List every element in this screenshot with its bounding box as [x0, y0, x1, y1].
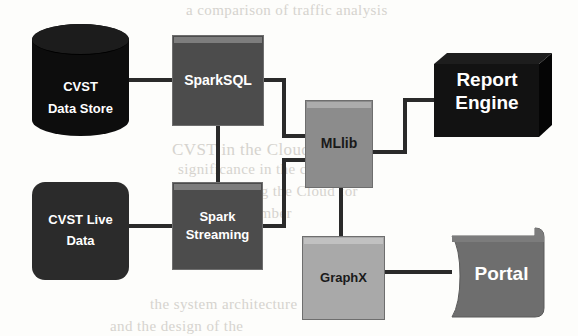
box-highlight: [307, 102, 371, 108]
node-cvst-data-store[interactable]: CVST Data Store: [32, 24, 129, 136]
node-label: Spark: [196, 210, 238, 225]
node-label-second-line: Streaming: [183, 228, 253, 243]
node-graphx[interactable]: GraphX: [302, 236, 385, 320]
node-spark-streaming[interactable]: Spark Streaming: [172, 182, 263, 270]
edge-sparksql-mllib: [264, 80, 305, 136]
box-highlight: [174, 37, 262, 43]
node-sparksql[interactable]: SparkSQL: [172, 35, 264, 126]
node-portal[interactable]: Portal: [443, 226, 548, 322]
node-report-engine[interactable]: Report Engine: [434, 53, 552, 137]
node-label-second-line: Engine: [452, 92, 521, 113]
node-label-second-line: Data Store: [32, 88, 129, 117]
node-label: Portal: [472, 263, 532, 284]
edge-mllib-reportengine: [373, 100, 441, 152]
node-mllib[interactable]: MLlib: [305, 100, 373, 188]
node-label: GraphX: [317, 271, 370, 286]
node-cvst-live-data[interactable]: CVST Live Data: [32, 182, 129, 280]
edge-streaming-mllib: [263, 160, 305, 226]
node-label: SparkSQL: [181, 73, 255, 89]
box-highlight: [304, 238, 383, 244]
node-label: Report: [453, 69, 520, 90]
cylinder-top-icon: [32, 24, 129, 55]
diagram-canvas: a comparison of traffic analysis CVST in…: [0, 0, 578, 336]
node-label: MLlib: [318, 136, 361, 152]
node-label-second-line: Data: [63, 234, 97, 249]
node-label: CVST Live: [45, 213, 115, 228]
box-highlight: [174, 184, 261, 190]
